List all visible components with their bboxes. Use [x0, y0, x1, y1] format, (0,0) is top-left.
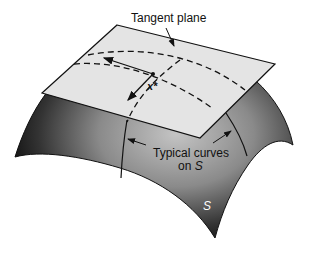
point-label: x*: [146, 80, 158, 92]
tangent-plane-label: Tangent plane: [131, 11, 207, 25]
curves-label-line2: on S: [178, 159, 203, 173]
surface-label: S: [203, 199, 211, 213]
curves-label-line1: Typical curves: [153, 146, 229, 160]
tangent-plane-diagram: Tangent plane x* Typical curves on S S: [0, 0, 309, 255]
curves-label-on: on: [178, 159, 195, 173]
curves-label-s: S: [195, 159, 203, 173]
